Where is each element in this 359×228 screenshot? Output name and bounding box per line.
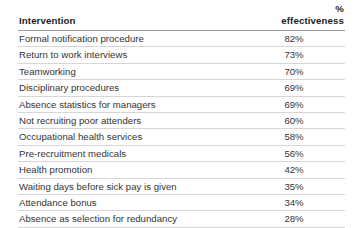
column-header-effectiveness: % effectiveness xyxy=(273,3,345,31)
cell-effectiveness: 35% xyxy=(273,178,345,194)
cell-intervention: Disciplinary procedures xyxy=(18,80,273,96)
table-row: Occupational health services58% xyxy=(18,129,345,145)
table-row: Not recruiting poor attenders60% xyxy=(18,113,345,129)
table-row: Teamworking70% xyxy=(18,63,345,79)
effectiveness-table: Intervention % effectiveness Formal noti… xyxy=(18,3,345,205)
table-body: Formal notification procedure82%Return t… xyxy=(18,31,345,206)
table-row: Disciplinary procedures69% xyxy=(18,80,345,96)
table-row: Formal notification procedure82% xyxy=(18,31,345,47)
cell-intervention: Teamworking xyxy=(18,63,273,79)
effectiveness-table-container: Intervention % effectiveness Formal noti… xyxy=(18,3,345,205)
cell-effectiveness: 73% xyxy=(273,47,345,63)
column-header-intervention: Intervention xyxy=(18,3,273,31)
table-row: Absence statistics for managers69% xyxy=(18,96,345,112)
cell-intervention: Absence statistics for managers xyxy=(18,96,273,112)
cell-intervention: Return to work interviews xyxy=(18,47,273,63)
table-row: Attendance bonus34% xyxy=(18,195,345,205)
cell-intervention: Health promotion xyxy=(18,162,273,178)
table-row: Pre-recruitment medicals56% xyxy=(18,145,345,161)
cell-effectiveness: 82% xyxy=(273,31,345,47)
cell-effectiveness: 60% xyxy=(273,113,345,129)
cell-effectiveness: 58% xyxy=(273,129,345,145)
cell-intervention: Formal notification procedure xyxy=(18,31,273,47)
table-header: Intervention % effectiveness xyxy=(18,3,345,31)
cell-intervention: Waiting days before sick pay is given xyxy=(18,178,273,194)
cell-effectiveness: 56% xyxy=(273,145,345,161)
table-row: Health promotion42% xyxy=(18,162,345,178)
cell-effectiveness: 42% xyxy=(273,162,345,178)
cell-effectiveness: 34% xyxy=(273,195,345,205)
cell-effectiveness: 70% xyxy=(273,63,345,79)
table-row: Return to work interviews73% xyxy=(18,47,345,63)
cell-intervention: Occupational health services xyxy=(18,129,273,145)
cell-effectiveness: 69% xyxy=(273,96,345,112)
cell-intervention: Attendance bonus xyxy=(18,195,273,205)
cell-intervention: Not recruiting poor attenders xyxy=(18,113,273,129)
table-row: Waiting days before sick pay is given35% xyxy=(18,178,345,194)
cell-effectiveness: 69% xyxy=(273,80,345,96)
cell-intervention: Pre-recruitment medicals xyxy=(18,145,273,161)
table-header-row: Intervention % effectiveness xyxy=(18,3,345,31)
